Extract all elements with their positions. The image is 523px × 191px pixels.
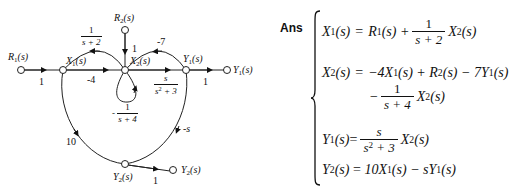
label-y1: Y1(s) [183,54,203,66]
node-y1-out [224,67,231,74]
gain-y1-out: 1 [203,77,208,87]
gain-x2-y1: ss2 + 3 [154,74,178,96]
self-loop-x2 [117,70,136,102]
label-y1-out: Y1(s) [233,65,253,77]
label-x2: X2(s) [130,56,150,68]
label-r1: R1(s) [8,52,28,64]
equation-x2: X2(s) = −4X1(s) + R2(s) − 7Y1(s) [322,66,508,80]
left-brace [310,10,322,186]
node-x2 [122,67,129,74]
equation-y2: Y2(s) = 10X1(s) − sY1(s) [322,163,456,177]
equation-y1: Y1(s) = ss2 + 3 X2(s) [322,125,429,154]
node-r2 [122,27,129,34]
gain-x2-x1: 1s + 2 [81,26,102,47]
gain-r1-x1: 1 [39,77,44,87]
label-y2-out: Y2(s) [181,165,201,177]
label-y2: Y2(s) [113,172,133,184]
node-y2 [122,161,129,168]
gain-r2-x2: 1 [132,44,137,54]
node-y2-out [170,167,177,174]
gain-y1-x2: -7 [157,37,165,47]
answer-panel: Ans X1(s) = R1(s) + 1s + 2 X2(s) X2(s) =… [272,0,523,191]
graph-lines [0,0,260,191]
gain-self-loop: - 1s + 4 [112,103,138,124]
equation-x1: X1(s) = R1(s) + 1s + 2 X2(s) [322,17,476,46]
equation-x2-cont: − 1s + 4 X2(s) [370,82,445,111]
gain-x1-x2: -4 [87,75,95,85]
gain-x1-y2: 10 [66,137,76,147]
label-x1: X1(s) [66,56,86,68]
node-y1 [183,67,190,74]
gain-y2-out: 1 [153,176,158,186]
label-r2: R2(s) [114,13,134,25]
node-r1 [18,67,25,74]
signal-flow-graph: R1(s) X1(s) X2(s) Y1(s) Y1(s) R2(s) Y2(s… [0,0,260,191]
ans-label: Ans [280,21,303,35]
gain-y1-y2: -s [183,124,190,134]
